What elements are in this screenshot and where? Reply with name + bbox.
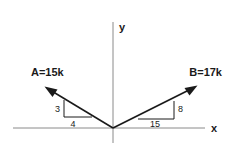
triangle-b-vertical-label: 8 [178, 104, 183, 114]
vector-diagram: A=15k B=17k 3 4 8 15 y x [0, 0, 233, 146]
vector-a-arrowhead [45, 87, 58, 98]
vector-b-label: B=17k [189, 66, 223, 78]
vector-b-slope-triangle [138, 101, 174, 119]
x-axis-label: x [211, 122, 218, 134]
diagram-canvas: A=15k B=17k 3 4 8 15 y x [0, 0, 233, 146]
triangle-a-vertical-label: 3 [55, 104, 60, 114]
y-axis-label: y [119, 21, 126, 33]
triangle-b-horizontal-label: 15 [150, 119, 160, 129]
vector-b-arrowhead [185, 86, 198, 96]
vector-a-slope-triangle [64, 100, 92, 117]
triangle-a-horizontal-label: 4 [70, 119, 75, 129]
vector-a-label: A=15k [31, 66, 65, 78]
